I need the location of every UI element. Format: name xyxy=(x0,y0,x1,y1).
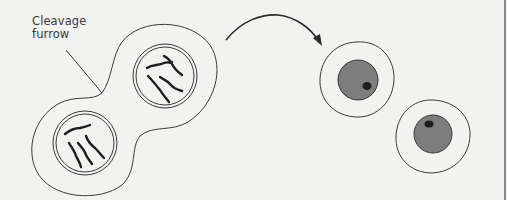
dividing-cell-membrane xyxy=(32,24,217,195)
label-leader-line xyxy=(66,50,102,93)
daughter-cell-1 xyxy=(320,42,394,117)
daughter-2-nucleolus xyxy=(425,121,434,128)
daughter-1-nucleolus xyxy=(363,82,372,90)
daughter-2-nucleus xyxy=(414,115,452,153)
page-edge-rule xyxy=(504,0,506,200)
transition-arrow-icon xyxy=(226,15,322,46)
lower-nucleus xyxy=(53,111,117,175)
lower-chromosomes xyxy=(65,125,104,167)
upper-nucleus xyxy=(133,44,197,108)
upper-chromosomes xyxy=(147,56,182,102)
daughter-1-nucleus xyxy=(338,60,378,100)
cell-division-diagram xyxy=(0,0,507,200)
daughter-cell-2 xyxy=(396,100,470,173)
